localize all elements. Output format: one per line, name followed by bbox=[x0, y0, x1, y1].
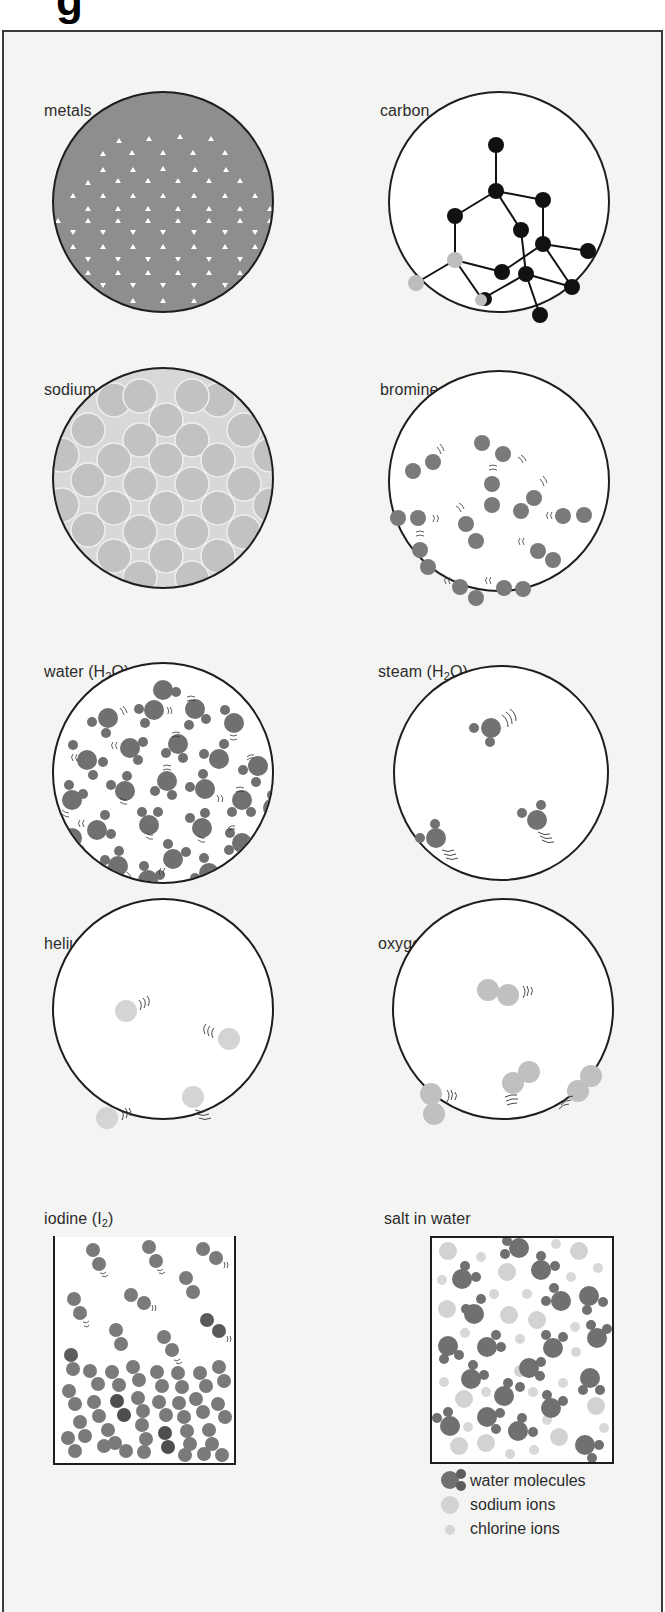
salt-in-water-diagram bbox=[431, 1236, 613, 1463]
chlorine-ion-icon bbox=[433, 1518, 473, 1542]
oxygen-diagram bbox=[393, 899, 613, 1125]
bromine-diagram bbox=[389, 371, 609, 606]
legend-label: water molecules bbox=[470, 1472, 586, 1490]
helium-diagram bbox=[53, 899, 273, 1129]
sodium-ion-icon bbox=[433, 1493, 473, 1517]
metals-diagram bbox=[53, 92, 273, 312]
steam-diagram bbox=[394, 666, 608, 880]
water-molecule-icon bbox=[433, 1468, 473, 1492]
legend-label: chlorine ions bbox=[470, 1520, 560, 1538]
legend-label: sodium ions bbox=[470, 1496, 555, 1514]
sodium-chloride-diagram bbox=[45, 368, 287, 597]
carbon-diagram bbox=[389, 92, 609, 323]
water-diagram bbox=[53, 663, 283, 890]
iodine-diagram bbox=[54, 1236, 235, 1464]
